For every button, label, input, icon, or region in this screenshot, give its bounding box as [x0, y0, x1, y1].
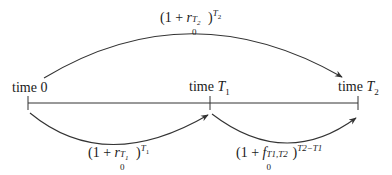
label-time-t1: time T1	[189, 80, 230, 94]
arc-bottom-left-arrow	[30, 113, 208, 145]
label-bottom-left-expression: (1 + rT10)T1	[88, 146, 149, 160]
label-bottom-right-expression: (1 + fT1,T20)T2−T1	[236, 146, 322, 160]
label-time-0: time 0	[12, 81, 47, 95]
arc-bottom-right-arrow	[212, 114, 356, 143]
label-time-t2: time T2	[338, 80, 379, 94]
label-top-expression: (1 + rT20)T2	[160, 11, 221, 25]
arc-top-arrow	[44, 34, 342, 78]
